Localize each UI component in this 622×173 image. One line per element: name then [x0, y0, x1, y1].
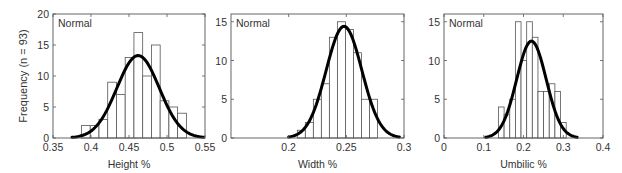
- histogram-bar: [532, 37, 538, 138]
- y-tick-label: 15: [37, 39, 49, 51]
- histogram-bar: [337, 22, 345, 138]
- x-tick-label: 0.3: [556, 141, 571, 153]
- x-axis-label: Width %: [298, 158, 337, 170]
- x-tick-label: 0.55: [195, 141, 216, 153]
- y-tick-label: 15: [215, 16, 227, 28]
- histogram-bar: [521, 61, 527, 139]
- histogram-bar: [116, 95, 125, 138]
- x-tick-label: 0.1: [476, 141, 491, 153]
- x-tick-label: 0.25: [336, 141, 357, 153]
- x-tick-label: 0.4: [84, 141, 99, 153]
- y-tick-label: 10: [215, 55, 227, 67]
- histogram-bar: [321, 84, 329, 138]
- x-axis-label: Height %: [108, 158, 151, 170]
- histogram-bars: [82, 33, 187, 138]
- y-tick-label: 5: [43, 101, 49, 113]
- y-tick-label: 5: [434, 93, 440, 105]
- x-tick-label: 0.45: [119, 141, 140, 153]
- y-tick-label: 10: [37, 70, 49, 82]
- histogram-panel-2: 0510150.20.250.3Width %Normal: [215, 14, 411, 170]
- figure: Frequency (n = 93) 051015200.350.40.450.…: [0, 0, 622, 173]
- y-axis-label: Frequency (n = 93): [17, 29, 29, 122]
- y-tick-label: 0: [221, 132, 227, 144]
- x-tick-label: 0.4: [596, 141, 611, 153]
- histogram-panel-3: 05101500.10.20.30.4Umbilic %Normal: [428, 14, 610, 170]
- x-tick-label: 0.35: [43, 141, 64, 153]
- histogram-bar: [345, 30, 353, 139]
- histogram-bar: [538, 92, 544, 139]
- x-tick-label: 0: [441, 141, 447, 153]
- x-tick-label: 0.2: [516, 141, 531, 153]
- x-tick-label: 0.2: [281, 141, 296, 153]
- x-tick-label: 0.5: [160, 141, 175, 153]
- histogram-bar: [544, 92, 550, 139]
- histogram-bar: [361, 99, 369, 138]
- y-tick-label: 5: [221, 93, 227, 105]
- histogram-bars: [498, 22, 566, 138]
- y-tick-label: 10: [428, 55, 440, 67]
- histogram-bar: [134, 33, 143, 138]
- x-tick-label: 0.3: [397, 141, 412, 153]
- histogram-bar: [143, 76, 152, 138]
- histogram-bar: [527, 22, 533, 138]
- distribution-annotation: Normal: [58, 17, 92, 29]
- histogram-bar: [151, 45, 160, 138]
- y-tick-label: 20: [37, 8, 49, 20]
- distribution-annotation: Normal: [449, 17, 483, 29]
- distribution-annotation: Normal: [236, 17, 270, 29]
- histogram-panel-1: 051015200.350.40.450.50.55Height %Normal: [37, 8, 215, 170]
- y-tick-label: 0: [434, 132, 440, 144]
- x-axis-label: Umbilic %: [500, 158, 547, 170]
- y-tick-label: 15: [428, 16, 440, 28]
